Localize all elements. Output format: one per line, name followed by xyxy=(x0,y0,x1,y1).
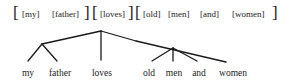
leaf-old: old xyxy=(143,68,155,78)
branch-subject-my xyxy=(28,44,42,61)
leaf-father: father xyxy=(49,68,71,78)
leaf-my: my xyxy=(22,68,34,78)
branch-object-women xyxy=(136,41,226,62)
leaf-women: women xyxy=(219,68,247,78)
leaf-loves: loves xyxy=(92,68,112,78)
leaf-and: and xyxy=(192,68,206,78)
branch-root-subject xyxy=(42,31,101,44)
branch-object-old xyxy=(152,48,173,61)
branch-subject-father xyxy=(42,44,57,61)
branch-root-object xyxy=(101,31,136,41)
leaf-men: men xyxy=(166,68,182,78)
